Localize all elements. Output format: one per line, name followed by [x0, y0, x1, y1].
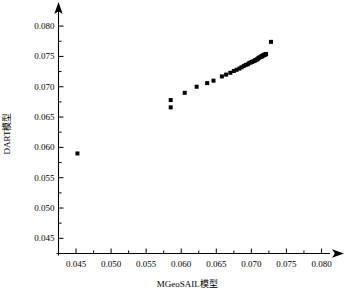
data-point-marker: [228, 71, 232, 75]
y-tick-label: 0.055: [34, 173, 54, 183]
x-tick-label: 0.070: [241, 259, 261, 269]
x-axis-title: MGeoSAIL模型: [157, 277, 218, 290]
y-axis-title: DART模型: [0, 106, 13, 162]
y-tick-label: 0.050: [34, 203, 54, 213]
axis-ticks: [59, 26, 322, 253]
data-point-marker: [211, 79, 215, 83]
data-point-marker: [220, 74, 224, 78]
y-tick-label: 0.080: [34, 21, 54, 31]
x-tick-label: 0.075: [276, 259, 296, 269]
y-tick-label: 0.045: [34, 233, 54, 243]
x-tick-label: 0.055: [136, 259, 156, 269]
data-point-marker: [205, 81, 209, 85]
axes: [54, 2, 344, 258]
y-tick-label: 0.070: [34, 82, 54, 92]
x-tick-label: 0.065: [206, 259, 226, 269]
data-point-marker: [183, 91, 187, 95]
y-tick-label: 0.065: [34, 112, 54, 122]
data-point-marker: [195, 85, 199, 89]
data-point-marker: [269, 40, 273, 44]
data-point-marker: [264, 52, 268, 56]
x-tick-label: 0.045: [66, 259, 86, 269]
data-points: [75, 40, 273, 156]
x-tick-label: 0.050: [101, 259, 121, 269]
y-tick-label: 0.060: [34, 142, 54, 152]
scatter-plot-figure: 0.0450.0500.0550.0600.0650.0700.0750.080…: [0, 0, 347, 299]
data-point-marker: [169, 98, 173, 102]
x-axis-arrowhead: [332, 249, 344, 257]
data-point-marker: [224, 73, 228, 77]
data-point-marker: [169, 105, 173, 109]
x-tick-label: 0.060: [171, 259, 191, 269]
data-point-marker: [75, 151, 79, 155]
x-tick-label: 0.080: [311, 259, 331, 269]
y-tick-label: 0.075: [34, 51, 54, 61]
